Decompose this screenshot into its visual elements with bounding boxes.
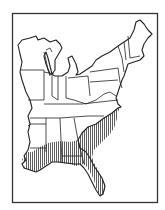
range-map	[0, 0, 165, 210]
map-frame	[13, 14, 158, 203]
